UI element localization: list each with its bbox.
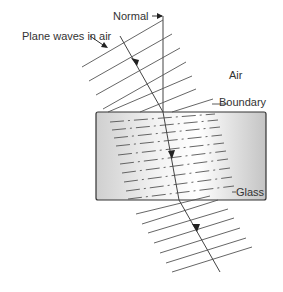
normal-pointer-arrow-icon	[157, 13, 163, 19]
plane-waves-pointer-arrow-icon	[101, 42, 108, 48]
plane-waves-label: Plane waves in air	[22, 31, 111, 42]
incident-arrow-icon	[131, 58, 139, 66]
incident-ray	[120, 36, 163, 112]
air-label: Air	[229, 70, 242, 81]
boundary-label: Boundary	[219, 97, 266, 108]
glass-label: Glass	[236, 187, 264, 198]
exit-wavefronts	[136, 196, 252, 272]
refraction-diagram	[0, 0, 283, 292]
normal-label: Normal	[113, 11, 148, 22]
